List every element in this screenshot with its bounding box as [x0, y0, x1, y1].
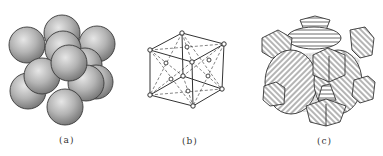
panel-a-sphere-model	[9, 15, 115, 125]
panel-b-lattice-model	[148, 31, 226, 108]
panel-c-sectioned-model	[262, 16, 375, 126]
panel-c-label: (c)	[317, 136, 332, 146]
fcc-unit-cell-figure: (a) (b) (c)	[0, 0, 383, 156]
panel-b-label: (b)	[182, 136, 198, 146]
panel-a-label: (a)	[59, 135, 74, 145]
figure-canvas	[0, 0, 383, 156]
